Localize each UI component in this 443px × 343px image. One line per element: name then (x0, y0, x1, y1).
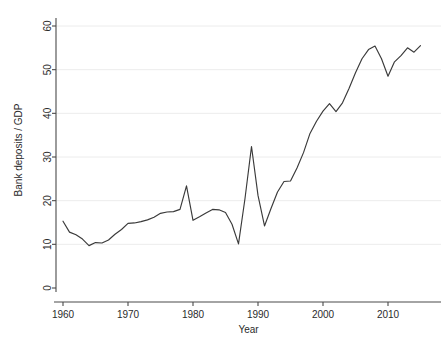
y-tick-label-0: 0 (42, 285, 53, 291)
x-tick-label-1980: 1980 (182, 309, 205, 320)
y-tick-label-60: 60 (42, 20, 53, 32)
y-axis-title: Bank deposits / GDP (13, 103, 24, 196)
line-chart: 0102030405060 196019701980199020002010 B… (0, 0, 443, 343)
x-tick-label-1970: 1970 (117, 309, 140, 320)
y-tick-label-40: 40 (42, 107, 53, 119)
y-tick-label-10: 10 (42, 238, 53, 250)
x-tick-label-1990: 1990 (247, 309, 270, 320)
y-tick-label-30: 30 (42, 151, 53, 163)
x-axis-title: Year (238, 324, 259, 335)
chart-figure: 0102030405060 196019701980199020002010 B… (0, 0, 443, 343)
x-tick-label-2000: 2000 (312, 309, 335, 320)
chart-background (0, 0, 443, 343)
x-tick-label-1960: 1960 (52, 309, 75, 320)
y-tick-label-50: 50 (42, 64, 53, 76)
y-tick-label-20: 20 (42, 195, 53, 207)
x-tick-label-2010: 2010 (377, 309, 400, 320)
